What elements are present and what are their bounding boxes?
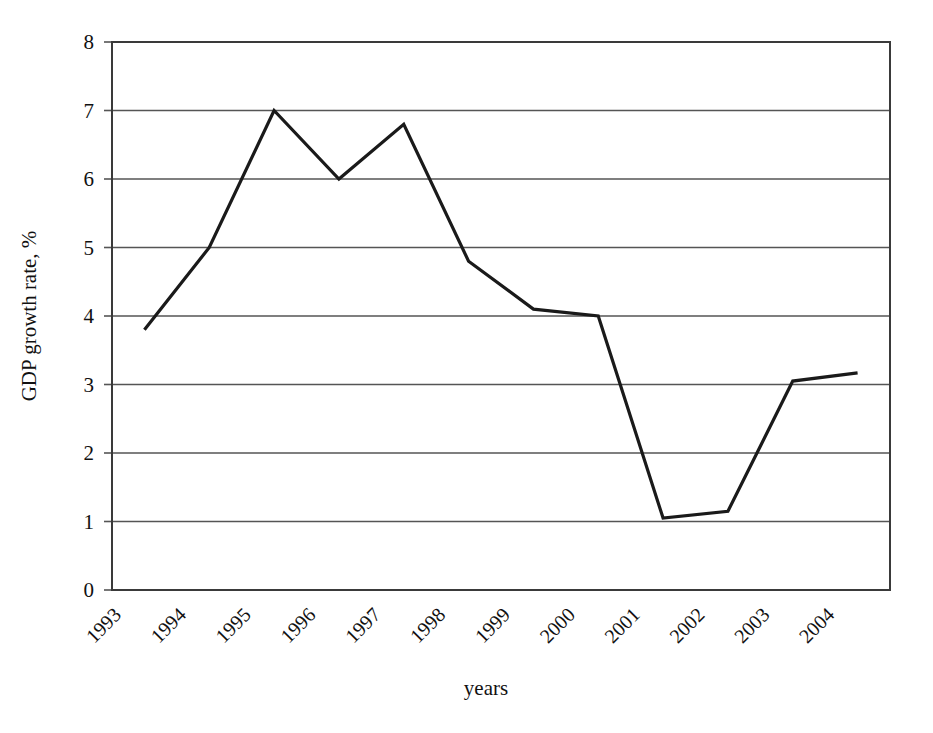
y-axis-tick-label: 1 xyxy=(84,510,95,534)
y-axis-tick-label: 4 xyxy=(84,304,95,328)
y-axis-tick-label: 7 xyxy=(84,99,95,123)
y-axis-tick-label: 5 xyxy=(84,236,95,260)
y-axis-tick-label: 0 xyxy=(84,578,95,602)
chart-canvas: 012345678 199319941995199619971998199920… xyxy=(0,0,933,733)
y-axis-title-text: GDP growth rate, % xyxy=(17,231,41,402)
x-axis-title: years xyxy=(464,676,508,700)
y-axis-tick-label: 2 xyxy=(84,441,95,465)
y-axis-title: GDP growth rate, % xyxy=(17,231,41,402)
y-axis-tick-label: 6 xyxy=(84,167,95,191)
x-axis-title-text: years xyxy=(464,676,508,700)
y-axis-tick-labels: 012345678 xyxy=(84,30,95,602)
gdp-growth-rate-chart: 012345678 199319941995199619971998199920… xyxy=(0,0,933,733)
y-axis-tick-label: 8 xyxy=(84,30,95,54)
y-axis-tick-label: 3 xyxy=(84,373,95,397)
